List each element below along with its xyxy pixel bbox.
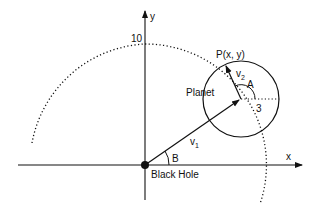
planet-label: Planet bbox=[186, 87, 215, 98]
v1-vector bbox=[145, 100, 239, 165]
v2-label: v2 bbox=[236, 68, 245, 81]
angle-b-label: B bbox=[172, 153, 179, 164]
black-hole-label: Black Hole bbox=[151, 169, 199, 180]
orbit-circle-dotted bbox=[32, 44, 266, 204]
v1-label: v1 bbox=[190, 136, 199, 149]
x-axis-label: x bbox=[286, 151, 291, 162]
angle-a-label: A bbox=[247, 79, 254, 90]
angle-b-arc bbox=[165, 151, 169, 165]
y-axis-label: y bbox=[150, 11, 155, 22]
black-hole-dot bbox=[141, 161, 149, 169]
radius-label: 3 bbox=[256, 103, 262, 114]
black-hole-orbit-diagram: y x 10 P(x, y) Planet v2 A 3 v1 B Black … bbox=[0, 0, 312, 213]
point-p-label: P(x, y) bbox=[216, 49, 245, 60]
y-tick-10: 10 bbox=[131, 33, 143, 44]
